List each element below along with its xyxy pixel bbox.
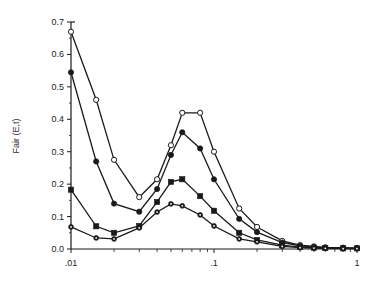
data-point-filled-square bbox=[237, 230, 242, 235]
data-point-filled-circle bbox=[68, 70, 73, 75]
data-point-filled-square bbox=[168, 179, 173, 184]
data-point-open-circle bbox=[168, 143, 173, 148]
y-tick-labels: 0.00.10.20.30.40.50.60.7 bbox=[51, 17, 64, 254]
data-point-center bbox=[95, 237, 97, 239]
y-tick-label: 0.2 bbox=[51, 179, 64, 189]
data-point-open-circle bbox=[198, 110, 203, 115]
data-point-open-circle bbox=[111, 157, 116, 162]
y-axis-title: Fair (E,t) bbox=[11, 118, 21, 153]
data-point-open-circle bbox=[154, 177, 159, 182]
data-point-open-circle bbox=[68, 29, 73, 34]
x-tick-labels: .01.11 bbox=[65, 258, 360, 268]
data-point-filled-circle bbox=[237, 216, 242, 221]
y-tick-label: 0.7 bbox=[51, 17, 64, 27]
axes bbox=[67, 22, 360, 253]
data-point-filled-circle bbox=[137, 209, 142, 214]
data-point-filled-circle bbox=[154, 186, 159, 191]
data-point-filled-square bbox=[68, 187, 73, 192]
y-tick-label: 0.3 bbox=[51, 147, 64, 157]
x-tick-label: 1 bbox=[354, 258, 359, 268]
data-point-center bbox=[313, 247, 315, 249]
data-point-center bbox=[256, 241, 258, 243]
data-point-center bbox=[281, 246, 283, 248]
data-point-filled-circle bbox=[94, 159, 99, 164]
data-point-open-circle bbox=[237, 206, 242, 211]
line-chart: 0.00.10.20.30.40.50.60.7 .01.11 Fair (E,… bbox=[0, 0, 377, 284]
data-point-open-circle bbox=[137, 195, 142, 200]
data-point-center bbox=[199, 214, 201, 216]
data-point-center bbox=[70, 226, 72, 228]
y-tick-label: 0.1 bbox=[51, 212, 64, 222]
y-tick-label: 0.5 bbox=[51, 82, 64, 92]
y-tick-label: 0.4 bbox=[51, 114, 64, 124]
data-point-center bbox=[113, 238, 115, 240]
y-tick-label: 0.0 bbox=[51, 244, 64, 254]
data-point-filled-circle bbox=[168, 152, 173, 157]
data-point-filled-circle bbox=[111, 201, 116, 206]
data-point-filled-circle bbox=[254, 230, 259, 235]
data-point-filled-square bbox=[211, 208, 216, 213]
data-point-center bbox=[181, 205, 183, 207]
data-point-filled-square bbox=[94, 224, 99, 229]
x-tick-label: .01 bbox=[65, 258, 78, 268]
data-point-open-circle bbox=[180, 110, 185, 115]
data-point-center bbox=[356, 248, 358, 250]
data-point-center bbox=[170, 203, 172, 205]
y-tick-label: 0.6 bbox=[51, 49, 64, 59]
series-line bbox=[71, 32, 357, 248]
data-point-open-circle bbox=[94, 97, 99, 102]
data-point-center bbox=[238, 238, 240, 240]
data-point-center bbox=[138, 227, 140, 229]
x-tick-label: .1 bbox=[210, 258, 218, 268]
data-point-filled-square bbox=[111, 230, 116, 235]
data-point-center bbox=[324, 247, 326, 249]
data-point-filled-square bbox=[154, 199, 159, 204]
data-point-filled-circle bbox=[198, 146, 203, 151]
data-point-open-circle bbox=[254, 224, 259, 229]
data-point-filled-square bbox=[180, 177, 185, 182]
data-point-open-circle bbox=[211, 149, 216, 154]
data-point-filled-circle bbox=[180, 130, 185, 135]
series-group bbox=[68, 29, 359, 251]
series-open-circle bbox=[68, 29, 359, 250]
data-point-center bbox=[299, 247, 301, 249]
data-point-filled-circle bbox=[211, 177, 216, 182]
data-point-center bbox=[213, 225, 215, 227]
data-point-filled-square bbox=[198, 194, 203, 199]
data-point-center bbox=[342, 248, 344, 250]
data-point-center bbox=[156, 211, 158, 213]
